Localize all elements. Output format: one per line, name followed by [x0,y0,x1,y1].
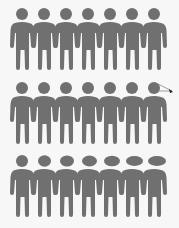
person-icon [141,153,167,219]
row-3 [0,153,179,223]
